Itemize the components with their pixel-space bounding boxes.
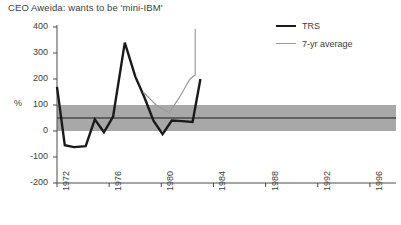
series-line-7-yr-average [143,29,195,113]
chart-figure: CEO Aweida: wants to be 'mini-IBM' TRS 7… [0,0,401,225]
plot-area [0,0,401,225]
series-line-trs [57,43,200,148]
